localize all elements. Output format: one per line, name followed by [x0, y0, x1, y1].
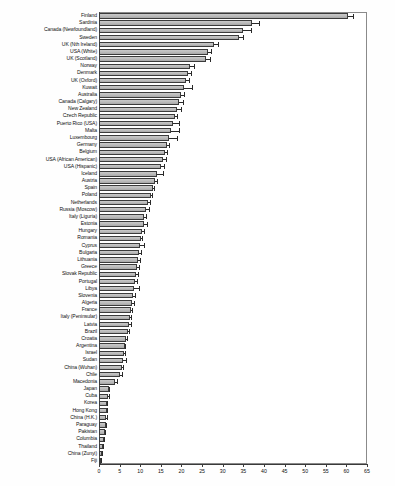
error-bar: [148, 200, 150, 206]
category-label: France: [82, 308, 97, 313]
x-tick-label: 0: [98, 468, 101, 474]
error-bar-cap: [107, 415, 108, 420]
error-bar: [206, 56, 211, 62]
error-bar: [348, 13, 354, 19]
error-bar-cap: [154, 186, 155, 191]
category-label: Malta: [85, 128, 97, 133]
error-bar-cap: [138, 272, 139, 277]
x-tick: [243, 464, 244, 467]
error-bar-cap: [103, 444, 104, 449]
bar: [99, 293, 133, 298]
category-label: Norway: [80, 64, 97, 69]
bar: [99, 214, 144, 219]
category-label: Netherlands: [71, 200, 97, 205]
bar: [99, 64, 190, 69]
bar: [99, 13, 348, 18]
error-bar: [165, 150, 168, 156]
category-label: Russia (Moscow): [59, 207, 97, 212]
category-label: Luxembourg: [70, 135, 97, 140]
bar: [99, 408, 107, 413]
category-label: Estonia: [81, 221, 97, 226]
x-tick: [140, 464, 141, 467]
error-bar-cap: [152, 193, 153, 198]
category-label: Romania: [77, 236, 97, 241]
error-bar-cap: [109, 394, 110, 399]
bar: [99, 329, 128, 334]
error-bar: [133, 293, 136, 299]
error-bar-cap: [117, 379, 118, 384]
category-label: Sweden: [79, 35, 97, 40]
bar: [99, 28, 243, 33]
x-tick: [305, 464, 306, 467]
category-label: Germany: [77, 142, 97, 147]
error-bar-cap: [179, 121, 180, 126]
error-bar: [188, 71, 192, 77]
category-label: Korea: [84, 401, 97, 406]
x-tick-label: 55: [323, 468, 329, 474]
error-bar-cap: [125, 351, 126, 356]
x-tick-label: 35: [240, 468, 246, 474]
category-label: Spain: [84, 186, 97, 191]
error-bar-cap: [126, 358, 127, 363]
error-bar-cap: [179, 128, 180, 133]
bar: [99, 401, 107, 406]
x-tick: [161, 464, 162, 467]
error-bar: [153, 185, 155, 191]
error-bar-cap: [107, 408, 108, 413]
bar: [99, 121, 173, 126]
bar: [99, 229, 142, 234]
category-label: Canada (Newfoundland): [44, 28, 97, 33]
error-bar-cap: [141, 250, 142, 255]
bar: [99, 56, 206, 61]
bar: [99, 379, 115, 384]
category-label: Italy (Peninsular): [61, 315, 97, 320]
error-bar: [108, 393, 110, 399]
bar: [99, 99, 179, 104]
category-label: USA (African American): [46, 157, 97, 162]
error-bar: [161, 164, 165, 170]
error-bar-cap: [210, 57, 211, 62]
category-label: Libya: [85, 286, 97, 291]
category-label: USA (White): [70, 49, 97, 54]
x-tick-label: 30: [220, 468, 226, 474]
error-bar-cap: [191, 71, 192, 76]
error-bar-cap: [183, 100, 184, 105]
error-bar: [137, 264, 139, 270]
error-bar: [101, 458, 102, 464]
category-label: Kuwait: [82, 85, 97, 90]
error-bar: [106, 422, 108, 428]
error-bar: [103, 444, 104, 450]
x-tick-label: 25: [199, 468, 205, 474]
error-bar-cap: [157, 179, 158, 184]
error-bar-cap: [107, 401, 108, 406]
x-tick: [181, 464, 182, 467]
category-label: Macedonia: [73, 379, 97, 384]
bar: [99, 300, 132, 305]
error-bar: [136, 271, 138, 277]
category-label: Finland: [81, 13, 97, 18]
error-bar: [128, 329, 130, 335]
x-tick-label: 45: [282, 468, 288, 474]
error-bar: [144, 214, 147, 220]
category-label: Argentina: [76, 343, 97, 348]
error-bar-cap: [139, 286, 140, 291]
error-bar: [106, 415, 107, 421]
error-bar-cap: [144, 229, 145, 234]
category-label: Austria: [82, 178, 97, 183]
error-bar-cap: [147, 222, 148, 227]
category-label: UK (Scotland): [67, 56, 97, 61]
bar: [99, 142, 167, 147]
bar: [99, 236, 141, 241]
category-label: New Zealand: [68, 107, 97, 112]
error-bar: [120, 372, 122, 378]
error-bar: [190, 63, 195, 69]
bar: [99, 85, 184, 90]
category-label: Czech Republic: [63, 114, 97, 119]
error-bar: [243, 28, 251, 34]
category-label: Columbia: [76, 437, 97, 442]
error-bar: [151, 193, 153, 199]
error-bar-cap: [137, 279, 138, 284]
error-bar: [184, 85, 193, 91]
category-label: Italy (Liguria): [69, 214, 97, 219]
error-bar: [105, 429, 106, 435]
